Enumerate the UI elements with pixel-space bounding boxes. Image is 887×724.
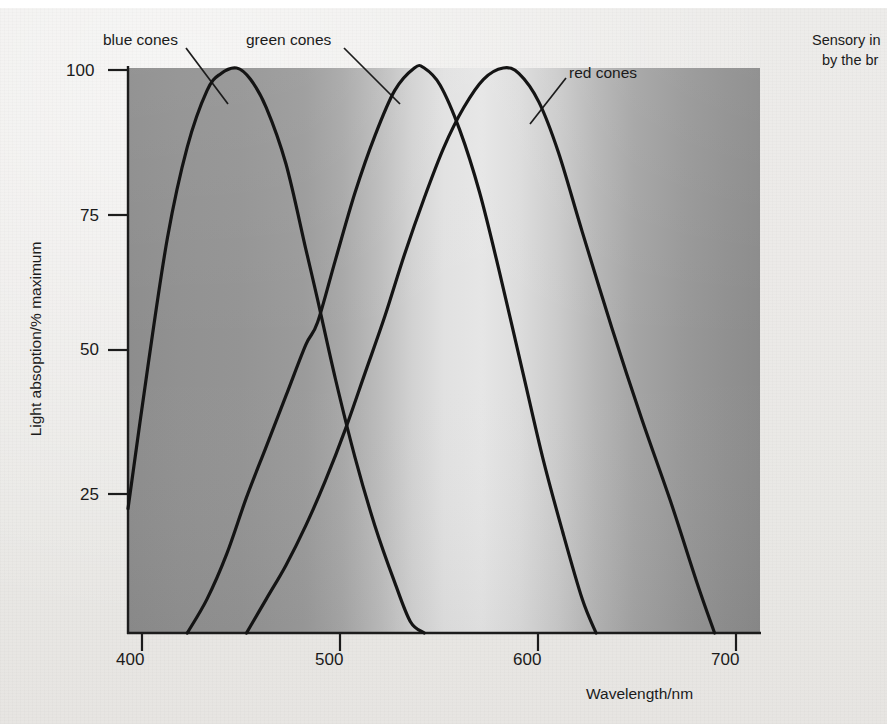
x-tick-label-400: 400 <box>116 650 144 670</box>
x-tick-label-500: 500 <box>315 650 343 670</box>
x-axis-title: Wavelength/nm <box>586 685 693 703</box>
annotation-green-cones: green cones <box>246 31 331 49</box>
y-tick-label-50: 50 <box>80 340 99 360</box>
y-axis-title: Light absoption/% maximum <box>27 209 45 469</box>
annotation-blue-cones: blue cones <box>103 31 178 49</box>
y-tick-label-100: 100 <box>66 61 94 81</box>
cone-absorption-figure: Light absoption/% maximum 100 75 50 25 4… <box>0 0 887 724</box>
x-tick-label-700: 700 <box>711 650 739 670</box>
chart-plot-svg <box>0 0 887 724</box>
y-tick-label-25: 25 <box>80 485 99 505</box>
side-note-line-1: Sensory in <box>812 32 881 48</box>
annotation-red-cones: red cones <box>569 64 637 82</box>
plot-vertical-shade <box>128 68 760 633</box>
side-note: Sensory in by the br <box>812 30 887 70</box>
x-tick-label-600: 600 <box>513 650 541 670</box>
y-tick-label-75: 75 <box>80 206 99 226</box>
side-note-line-2: by the br <box>812 50 887 70</box>
